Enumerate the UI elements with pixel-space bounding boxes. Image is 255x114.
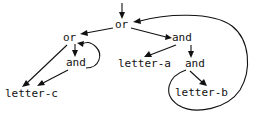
node-and-inner[interactable]: and — [185, 58, 205, 69]
edge-and-right-to-letter-a — [144, 45, 176, 57]
edge-and-inner-to-letter-b — [190, 71, 207, 86]
node-and-right[interactable]: and — [172, 32, 192, 43]
arrow-head-icon — [133, 18, 141, 24]
edge-line — [131, 28, 166, 37]
edge-or-root-to-and-right — [131, 28, 172, 40]
node-letter-c[interactable]: letter-c — [5, 88, 58, 99]
node-and-left[interactable]: and — [66, 57, 86, 68]
arrow-head-icon — [165, 34, 172, 40]
edge-line — [190, 71, 202, 82]
edge-line — [43, 70, 68, 83]
edge-or-root-to-or-left — [80, 28, 113, 36]
node-letter-b[interactable]: letter-b — [175, 87, 228, 98]
edge-and-left-to-letter-c — [37, 70, 68, 86]
edge-line — [27, 45, 67, 83]
arrow-head-icon — [77, 41, 84, 47]
arrow-head-icon — [37, 80, 45, 86]
arrow-head-icon — [80, 30, 88, 36]
edge-line — [150, 45, 176, 55]
edge-line — [86, 28, 113, 33]
node-or-root[interactable]: or — [115, 19, 128, 30]
edge-or-left-to-letter-c — [22, 45, 67, 87]
node-letter-a[interactable]: letter-a — [118, 58, 171, 69]
graph-diagram: or or and letter-c and letter-a and lett… — [0, 0, 255, 114]
edge-entry-to-or-root — [119, 3, 125, 19]
node-or-left[interactable]: or — [63, 32, 76, 43]
